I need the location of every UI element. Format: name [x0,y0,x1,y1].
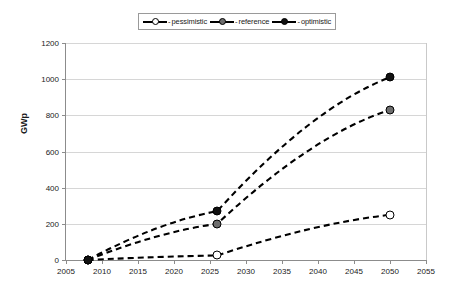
x-tick-label-2040: 2040 [309,267,327,276]
plot-area: 020040060080010001200 200520102015202020… [65,43,427,261]
x-tick-mark-2040 [318,260,319,264]
legend-label-optimistic: optimistic [301,17,331,26]
data-point-optimistic-2008[interactable] [83,256,92,265]
y-tick-label-1000: 1000 [41,75,59,84]
gridline-y-400 [66,188,426,189]
x-tick-label-2010: 2010 [93,267,111,276]
x-tick-mark-2015 [138,260,139,264]
y-tick-label-600: 600 [46,147,59,156]
legend-marker-filled-circle-icon [272,17,296,27]
x-tick-mark-2010 [102,260,103,264]
legend-separator-2: - [297,17,300,26]
x-tick-label-2030: 2030 [237,267,255,276]
x-tick-mark-2025 [210,260,211,264]
legend-label-reference: reference [239,17,270,26]
data-point-pessimistic-2026[interactable] [213,251,222,260]
chart-figure: - pessimistic - reference - optimistic G… [0,0,457,293]
x-tick-mark-2020 [174,260,175,264]
gridline-y-200 [66,224,426,225]
series-line-optimistic [88,77,390,260]
y-tick-label-0: 0 [55,256,59,265]
x-tick-label-2020: 2020 [165,267,183,276]
legend-separator-1: - [235,17,238,26]
y-tick-label-200: 200 [46,219,59,228]
data-point-pessimistic-2050[interactable] [386,210,395,219]
chart-legend: - pessimistic - reference - optimistic [138,13,336,30]
y-tick-mark-200 [62,224,66,225]
x-tick-label-2025: 2025 [201,267,219,276]
y-tick-mark-1200 [62,43,66,44]
x-tick-mark-2005 [66,260,67,264]
y-tick-mark-800 [62,115,66,116]
x-tick-mark-2045 [354,260,355,264]
legend-marker-gray-circle-icon [210,17,234,27]
x-tick-mark-2035 [282,260,283,264]
gridline-y-1200 [66,43,426,44]
x-tick-label-2050: 2050 [381,267,399,276]
x-tick-label-2055: 2055 [417,267,435,276]
data-point-optimistic-2050[interactable] [386,73,395,82]
legend-entry-pessimistic[interactable]: - pessimistic [143,17,207,27]
y-tick-label-1200: 1200 [41,39,59,48]
gridline-y-1000 [66,79,426,80]
x-tick-mark-2030 [246,260,247,264]
x-tick-mark-2050 [390,260,391,264]
y-tick-mark-600 [62,152,66,153]
legend-entry-reference[interactable]: - reference [210,17,269,27]
series-line-reference [88,110,390,260]
x-tick-label-2005: 2005 [57,267,75,276]
legend-entry-optimistic[interactable]: - optimistic [272,17,331,27]
gridline-y-600 [66,152,426,153]
x-tick-label-2035: 2035 [273,267,291,276]
legend-marker-open-circle-icon [143,17,167,27]
x-tick-label-2015: 2015 [129,267,147,276]
y-tick-mark-1000 [62,79,66,80]
data-point-reference-2050[interactable] [386,105,395,114]
legend-label-pessimistic: pessimistic [172,17,208,26]
gridline-y-800 [66,115,426,116]
data-point-reference-2026[interactable] [213,219,222,228]
y-axis-title: GWp [19,113,29,134]
x-tick-mark-2055 [426,260,427,264]
legend-separator-0: - [168,17,171,26]
x-tick-label-2045: 2045 [345,267,363,276]
y-tick-label-800: 800 [46,111,59,120]
y-tick-label-400: 400 [46,183,59,192]
data-point-optimistic-2026[interactable] [213,207,222,216]
series-line-pessimistic [88,215,390,260]
y-tick-mark-400 [62,188,66,189]
